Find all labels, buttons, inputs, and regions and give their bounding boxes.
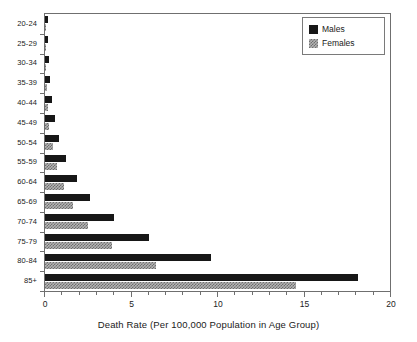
x-axis-label-10: 10 <box>213 299 222 309</box>
x-tick-6 <box>148 292 149 295</box>
x-tick-12 <box>252 292 253 295</box>
bar-females-65-69 <box>45 202 73 209</box>
x-axis-label-15: 15 <box>300 299 309 309</box>
y-axis-label-75-79: 75-79 <box>17 238 37 246</box>
legend-swatch-males-icon <box>309 25 318 34</box>
y-axis-labels: 20-2425-2930-3435-3940-4445-4950-5455-59… <box>0 14 41 291</box>
bar-males-55-59 <box>45 155 66 162</box>
x-tick-13 <box>269 292 270 295</box>
bar-females-50-54 <box>45 143 53 150</box>
x-tick-15 <box>304 292 305 297</box>
y-axis-label-25-29: 25-29 <box>17 40 37 48</box>
bar-females-85+ <box>45 282 296 289</box>
bar-males-40-44 <box>45 96 52 103</box>
x-tick-11 <box>234 292 235 295</box>
x-tick-3 <box>96 292 97 295</box>
legend-swatch-females-icon <box>309 39 318 48</box>
legend: Males Females <box>302 17 385 55</box>
bar-males-60-64 <box>45 175 77 182</box>
bar-females-45-49 <box>45 123 49 130</box>
x-tick-19 <box>373 292 374 295</box>
x-tick-1 <box>61 292 62 295</box>
x-tick-0 <box>44 292 45 297</box>
bars-layer <box>45 14 391 291</box>
y-axis-label-40-44: 40-44 <box>17 99 37 107</box>
y-axis-label-35-39: 35-39 <box>17 79 37 87</box>
x-axis-label-20: 20 <box>386 299 395 309</box>
bar-males-35-39 <box>45 76 50 83</box>
bar-females-20-24 <box>45 24 46 31</box>
bar-females-75-79 <box>45 242 112 249</box>
legend-item-females: Females <box>309 37 379 49</box>
x-tick-14 <box>286 292 287 295</box>
bar-males-85+ <box>45 274 358 281</box>
x-tick-18 <box>355 292 356 295</box>
bar-females-70-74 <box>45 222 88 229</box>
bar-females-55-59 <box>45 163 57 170</box>
y-axis-label-45-49: 45-49 <box>17 119 37 127</box>
bar-females-30-34 <box>45 64 46 71</box>
x-tick-5 <box>131 292 132 297</box>
y-axis-label-65-69: 65-69 <box>17 198 37 206</box>
y-axis-label-20-24: 20-24 <box>17 20 37 28</box>
bar-males-45-49 <box>45 115 55 122</box>
x-tick-20 <box>390 292 391 297</box>
x-axis-label-5: 5 <box>129 299 134 309</box>
legend-label-males: Males <box>322 24 345 34</box>
x-tick-2 <box>79 292 80 295</box>
bar-females-25-29 <box>45 44 46 51</box>
y-axis-label-60-64: 60-64 <box>17 178 37 186</box>
bar-males-50-54 <box>45 135 59 142</box>
x-axis-label-0: 0 <box>43 299 48 309</box>
x-tick-17 <box>338 292 339 295</box>
bar-males-75-79 <box>45 234 149 241</box>
y-axis-label-80-84: 80-84 <box>17 257 37 265</box>
x-tick-7 <box>165 292 166 295</box>
bar-males-70-74 <box>45 214 114 221</box>
y-axis-label-30-34: 30-34 <box>17 59 37 67</box>
y-axis-label-50-54: 50-54 <box>17 139 37 147</box>
legend-item-males: Males <box>309 23 379 35</box>
x-tick-16 <box>321 292 322 295</box>
x-tick-9 <box>200 292 201 295</box>
y-axis-label-70-74: 70-74 <box>17 218 37 226</box>
bar-females-35-39 <box>45 84 47 91</box>
bar-chart: 20-2425-2930-3435-3940-4445-4950-5455-59… <box>0 0 417 342</box>
bar-males-25-29 <box>45 36 48 43</box>
legend-label-females: Females <box>322 38 355 48</box>
x-tick-10 <box>217 292 218 297</box>
bar-males-65-69 <box>45 194 90 201</box>
bar-males-80-84 <box>45 254 211 261</box>
x-tick-8 <box>182 292 183 295</box>
x-axis-title: Death Rate (Per 100,000 Population in Ag… <box>0 319 417 330</box>
bar-females-60-64 <box>45 183 64 190</box>
bar-females-80-84 <box>45 262 156 269</box>
bar-males-30-34 <box>45 56 49 63</box>
y-axis-label-85+: 85+ <box>24 277 37 285</box>
bar-females-40-44 <box>45 104 48 111</box>
x-tick-4 <box>113 292 114 295</box>
y-axis-label-55-59: 55-59 <box>17 158 37 166</box>
bar-males-20-24 <box>45 16 48 23</box>
